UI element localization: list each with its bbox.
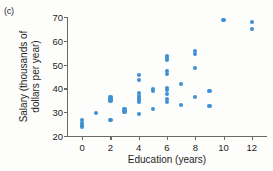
panel-label: (c) xyxy=(4,6,14,16)
y-tick-label: 60 xyxy=(52,35,63,46)
data-point xyxy=(80,124,84,128)
data-point xyxy=(165,58,169,62)
y-tick-label: 40 xyxy=(52,83,63,94)
data-point xyxy=(122,109,126,113)
x-tick-mark xyxy=(167,136,168,140)
data-point xyxy=(137,100,141,104)
data-point xyxy=(165,92,169,96)
data-point xyxy=(108,118,112,122)
x-tick-mark xyxy=(139,136,140,140)
scatter-plot-figure: (c) 203040506070 024681012 Education (ye… xyxy=(0,0,273,171)
data-point xyxy=(151,107,155,111)
data-point xyxy=(207,89,211,93)
x-tick-mark xyxy=(82,136,83,140)
data-point xyxy=(94,111,98,115)
x-tick-label: 8 xyxy=(193,142,198,153)
data-point xyxy=(221,18,225,22)
x-tick-mark xyxy=(195,136,196,140)
y-tick-mark xyxy=(64,17,68,18)
y-tick-mark xyxy=(64,112,68,113)
y-tick-label: 20 xyxy=(52,131,63,142)
data-point xyxy=(137,78,141,82)
data-point xyxy=(165,100,169,104)
x-tick-label: 10 xyxy=(218,142,229,153)
data-point xyxy=(193,52,197,56)
data-point xyxy=(165,72,169,76)
x-tick-label: 12 xyxy=(247,142,258,153)
data-point xyxy=(193,66,197,70)
x-tick-mark xyxy=(224,136,225,140)
data-point xyxy=(137,112,141,116)
y-tick-mark xyxy=(64,41,68,42)
y-tick-mark xyxy=(64,136,68,137)
x-tick-mark xyxy=(252,136,253,140)
data-point xyxy=(250,27,254,31)
y-tick-mark xyxy=(64,65,68,66)
x-tick-label: 0 xyxy=(79,142,84,153)
x-tick-label: 4 xyxy=(136,142,141,153)
data-point xyxy=(207,104,211,108)
x-tick-label: 2 xyxy=(108,142,113,153)
y-tick-label: 70 xyxy=(52,12,63,23)
y-tick-label: 30 xyxy=(52,107,63,118)
data-point xyxy=(151,89,155,93)
y-axis-label: Salary (thousands of dollars per year) xyxy=(18,17,42,136)
y-axis-label-wrapper: Salary (thousands of dollars per year) xyxy=(18,17,48,136)
x-axis-label: Education (years) xyxy=(68,154,266,165)
data-point xyxy=(250,20,254,24)
data-point xyxy=(108,98,112,102)
data-point xyxy=(179,103,183,107)
data-point xyxy=(137,73,141,77)
x-tick-label: 6 xyxy=(164,142,169,153)
x-tick-mark xyxy=(110,136,111,140)
y-tick-mark xyxy=(64,88,68,89)
data-point xyxy=(179,82,183,86)
y-tick-label: 50 xyxy=(52,59,63,70)
data-point xyxy=(193,95,197,99)
plot-area: 203040506070 024681012 xyxy=(68,17,266,136)
